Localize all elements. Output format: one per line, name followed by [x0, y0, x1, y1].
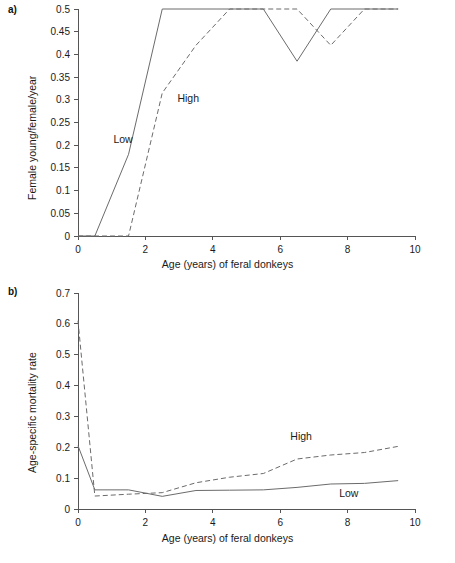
x-tick-label: 4 — [210, 244, 216, 255]
y-tick-label: 0.4 — [56, 49, 70, 60]
y-tick-label: 0.7 — [56, 288, 70, 299]
x-tick-label: 10 — [409, 517, 421, 528]
x-tick-label: 2 — [143, 517, 149, 528]
x-tick-label: 0 — [75, 244, 81, 255]
y-tick-label: 0.45 — [51, 26, 71, 37]
x-tick-label: 0 — [75, 517, 81, 528]
y-tick-label: 0.3 — [56, 94, 70, 105]
series-label-high: High — [177, 92, 199, 104]
y-tick-label: 0 — [64, 231, 70, 242]
y-tick-label: 0.25 — [51, 117, 71, 128]
y-tick-label: 0.5 — [56, 349, 70, 360]
series-line-high — [78, 9, 398, 236]
y-tick-label: 0.5 — [56, 4, 70, 15]
y-tick-label: 0.4 — [56, 380, 70, 391]
x-tick-label: 2 — [143, 244, 149, 255]
y-tick-label: 0.3 — [56, 411, 70, 422]
y-tick-label: 0.1 — [56, 473, 70, 484]
y-tick-label: 0.1 — [56, 185, 70, 196]
panel-a: a) Female young/female/year Age (years) … — [0, 0, 455, 280]
y-tick-label: 0.2 — [56, 442, 70, 453]
x-tick-label: 4 — [210, 517, 216, 528]
figure-container: a) Female young/female/year Age (years) … — [0, 0, 455, 563]
y-tick-label: 0.05 — [51, 208, 71, 219]
x-tick-label: 6 — [277, 244, 283, 255]
y-tick-label: 0 — [64, 504, 70, 515]
x-tick-label: 6 — [277, 517, 283, 528]
y-tick-label: 0.2 — [56, 140, 70, 151]
series-label-high: High — [290, 430, 312, 442]
x-tick-label: 10 — [409, 244, 421, 255]
y-tick-label: 0.15 — [51, 162, 71, 173]
x-tick-label: 8 — [345, 517, 351, 528]
x-tick-label: 8 — [345, 244, 351, 255]
y-tick-label: 0.6 — [56, 318, 70, 329]
series-label-low: Low — [339, 487, 359, 499]
y-tick-label: 0.35 — [51, 72, 71, 83]
panel-a-plot: 00.050.10.150.20.250.30.350.40.450.50246… — [0, 0, 455, 280]
series-line-low — [78, 9, 398, 236]
panel-b-plot: 00.10.20.30.40.50.60.70246810LowHigh — [0, 280, 455, 563]
panel-b: b) Age-specific mortality rate Age (year… — [0, 280, 455, 563]
series-line-high — [78, 321, 398, 496]
series-label-low: Low — [113, 133, 133, 145]
